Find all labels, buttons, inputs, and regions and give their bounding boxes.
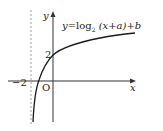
y-axis-arrow-icon [51,11,56,17]
y-intercept-label: 2 [45,50,51,60]
origin-label: O [42,83,50,93]
y-axis-label: y [43,11,49,21]
x-axis-label: x [130,83,136,93]
log-curve [33,33,135,122]
asymptote-label: −2 [12,78,27,88]
equation-label: y=log2 (x+a)+b [62,21,141,33]
eq-log: log [76,20,92,31]
eq-equals: = [68,20,76,31]
eq-arg: (x+a) [99,20,127,31]
eq-rest: +b [126,20,141,31]
eq-base: 2 [92,26,96,33]
